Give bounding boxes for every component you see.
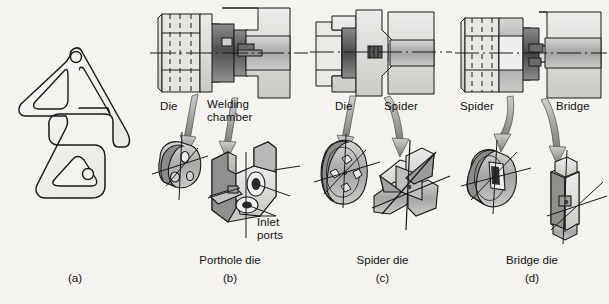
panel-d-drawing xyxy=(455,0,609,250)
panel-d-caption: Bridge die xyxy=(455,254,609,267)
panel-a-letter: (a) xyxy=(0,272,150,285)
label-die-c: Die xyxy=(335,100,353,113)
spider-mandrel xyxy=(374,148,438,216)
panel-b-letter: (b) xyxy=(150,272,310,285)
panel-b-caption: Porthole die xyxy=(150,254,310,267)
panel-d-letter: (d) xyxy=(455,272,609,285)
bridge-hub xyxy=(564,200,568,204)
label-bridge-d: Bridge xyxy=(556,100,590,113)
panel-a: (a) xyxy=(0,0,150,304)
panel-b-drawing xyxy=(150,0,310,250)
extruded-profile-outline xyxy=(19,48,130,198)
panel-c: Die Spider Spider die (c) xyxy=(310,0,455,304)
spider-die-section xyxy=(316,10,434,96)
label-inlet-ports: Inlet ports xyxy=(257,216,283,241)
label-welding-chamber: Welding chamber xyxy=(207,98,252,123)
label-spider-d: Spider xyxy=(460,100,494,113)
label-die-b: Die xyxy=(160,100,178,113)
panel-c-letter: (c) xyxy=(310,272,455,285)
spider-hub xyxy=(407,185,412,190)
panel-a-drawing xyxy=(0,0,150,250)
extrusion-die-figure: (a) xyxy=(0,0,609,304)
label-spider-c: Spider xyxy=(384,100,418,113)
panel-d: Spider Bridge Bridge die (d) xyxy=(455,0,609,304)
panel-c-drawing xyxy=(310,0,455,250)
welding-chamber-block xyxy=(210,142,276,222)
panel-c-caption: Spider die xyxy=(310,254,455,267)
panel-b: Die Welding chamber Inlet ports Porthole… xyxy=(150,0,310,304)
